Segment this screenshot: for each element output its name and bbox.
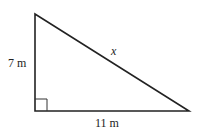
horizontal-side-label: 11 m	[95, 116, 120, 130]
right-angle-marker	[35, 99, 47, 111]
triangle-diagram: 7 m x 11 m	[0, 0, 200, 137]
hypotenuse-label: x	[110, 44, 117, 58]
right-triangle	[35, 14, 189, 111]
vertical-side-label: 7 m	[8, 56, 27, 70]
